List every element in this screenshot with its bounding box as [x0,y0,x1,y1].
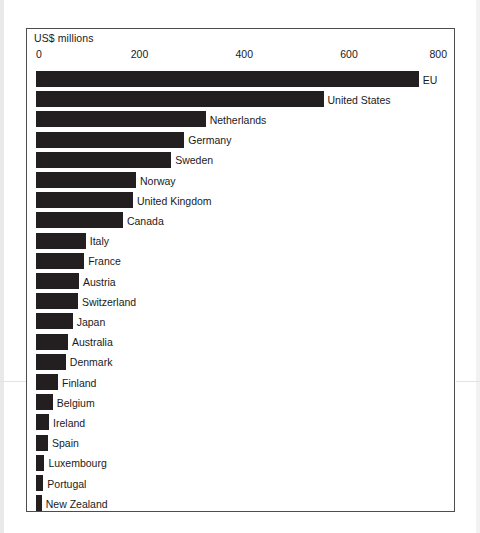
bar-eu[interactable] [36,71,419,87]
bar-label-ireland: Ireland [49,416,85,430]
bar-row: France [36,252,455,272]
bar-label-sweden: Sweden [171,153,213,167]
bar-austria[interactable] [36,273,79,289]
bar-united-kingdom[interactable] [36,192,133,208]
bar-label-portugal: Portugal [43,477,86,491]
bar-row: Belgium [36,393,455,413]
bar-label-eu: EU [419,73,438,87]
bar-label-belgium: Belgium [53,396,95,410]
bar-row: Switzerland [36,292,455,312]
bar-row: Italy [36,232,455,252]
bar-switzerland[interactable] [36,293,78,309]
bar-label-luxembourg: Luxembourg [44,456,106,470]
bar-row: Netherlands [36,110,455,130]
bar-row: Austria [36,272,455,292]
bar-label-norway: Norway [136,174,176,188]
bar-label-finland: Finland [58,376,96,390]
bar-japan[interactable] [36,313,73,329]
bar-row: EU [36,70,455,90]
bar-label-new-zealand: New Zealand [42,497,108,511]
bar-luxembourg[interactable] [36,455,44,471]
bar-row: Portugal [36,474,455,494]
bar-netherlands[interactable] [36,111,206,127]
bar-row: Sweden [36,151,455,171]
x-tick-800: 800 [429,48,447,60]
bar-label-italy: Italy [86,234,109,248]
bar-label-spain: Spain [48,436,79,450]
bar-row: Australia [36,333,455,353]
bar-canada[interactable] [36,212,123,228]
bar-denmark[interactable] [36,354,66,370]
bar-united-states[interactable] [36,91,324,107]
page-canvas: US$ millions 0200400600800 EUUnited Stat… [0,0,480,533]
bar-row: Norway [36,171,455,191]
bar-label-netherlands: Netherlands [206,113,267,127]
bar-label-united-kingdom: United Kingdom [133,194,212,208]
x-axis-tick-labels: 0200400600800 [26,48,455,62]
x-axis-unit-label: US$ millions [34,32,94,44]
bar-row: United Kingdom [36,191,455,211]
page-edge-artifact-right [476,0,480,533]
bar-belgium[interactable] [36,394,53,410]
bar-row: United States [36,90,455,110]
bar-label-france: France [84,254,121,268]
page-rule-right [456,381,480,382]
bar-norway[interactable] [36,172,136,188]
bar-row: Germany [36,131,455,151]
bar-label-australia: Australia [68,335,113,349]
bar-row: Japan [36,312,455,332]
page-rule-left [0,381,26,382]
bar-germany[interactable] [36,132,184,148]
x-tick-600: 600 [340,48,358,60]
bar-label-germany: Germany [184,133,231,147]
bar-italy[interactable] [36,233,86,249]
bar-label-japan: Japan [73,315,106,329]
x-tick-0: 0 [36,48,42,60]
bar-sweden[interactable] [36,152,171,168]
bar-portugal[interactable] [36,475,43,491]
bar-label-austria: Austria [79,275,116,289]
x-tick-200: 200 [131,48,149,60]
bar-label-united-states: United States [324,93,391,107]
bar-label-switzerland: Switzerland [78,295,136,309]
bar-finland[interactable] [36,374,58,390]
bar-france[interactable] [36,253,84,269]
bar-row: Canada [36,211,455,231]
bar-row: Luxembourg [36,454,455,474]
page-edge-artifact-left [0,0,4,533]
bar-australia[interactable] [36,334,68,350]
x-tick-400: 400 [236,48,254,60]
bar-row: New Zealand [36,494,455,514]
bar-row: Denmark [36,353,455,373]
bar-row: Finland [36,373,455,393]
bar-label-canada: Canada [123,214,164,228]
bar-row: Spain [36,434,455,454]
bar-spain[interactable] [36,435,48,451]
bar-ireland[interactable] [36,414,49,430]
bar-label-denmark: Denmark [66,355,113,369]
bar-row: Ireland [36,413,455,433]
plot-area: EUUnited StatesNetherlandsGermanySwedenN… [36,70,455,500]
